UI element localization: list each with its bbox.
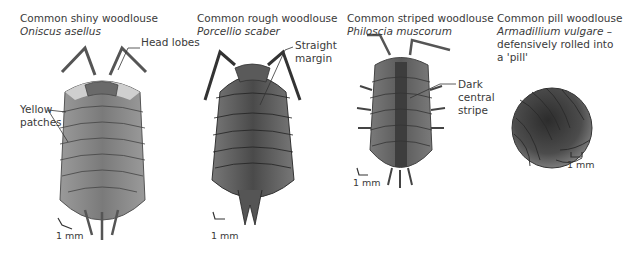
label-dark: Dark (458, 78, 483, 91)
shiny-woodlouse-title: Common shiny woodlouse Oniscus asellus (20, 12, 158, 38)
pill-woodlouse-drawing (512, 88, 592, 168)
label-margin: margin (295, 52, 332, 65)
common-name: Common shiny woodlouse (20, 12, 158, 24)
striped-woodlouse-title: Common striped woodlouse Philoscia musco… (347, 12, 494, 38)
common-name: Common rough woodlouse (197, 12, 337, 24)
label-head-lobes: Head lobes (141, 36, 200, 49)
rough-woodlouse-title: Common rough woodlouse Porcellio scaber (197, 12, 337, 38)
scientific-name: Porcellio scaber (197, 25, 337, 38)
scientific-name: Armadillium vulgare – (497, 25, 622, 38)
shiny-woodlouse-drawing (58, 48, 146, 240)
description-line: defensively rolled into (497, 38, 622, 51)
scientific-name: Oniscus asellus (20, 25, 158, 38)
label-central: central (458, 91, 495, 104)
common-name: Common striped woodlouse (347, 12, 494, 24)
label-straight: Straight (295, 39, 337, 52)
scale-bar-label: 1 mm (56, 230, 84, 241)
description-line: a 'pill' (497, 51, 622, 64)
scale-bar-label: 1 mm (353, 177, 381, 188)
label-patches: patches (20, 116, 62, 129)
label-stripe: stripe (458, 104, 488, 117)
scientific-name: Philoscia muscorum (347, 25, 494, 38)
common-name: Common pill woodlouse (497, 12, 622, 24)
label-yellow: Yellow (20, 103, 52, 116)
striped-woodlouse-drawing (357, 35, 450, 188)
rough-woodlouse-drawing (205, 52, 300, 225)
scale-bar-label: 1 mm (567, 159, 595, 170)
pill-woodlouse-title: Common pill woodlouse Armadillium vulgar… (497, 12, 622, 64)
scale-bar-label: 1 mm (211, 230, 239, 241)
